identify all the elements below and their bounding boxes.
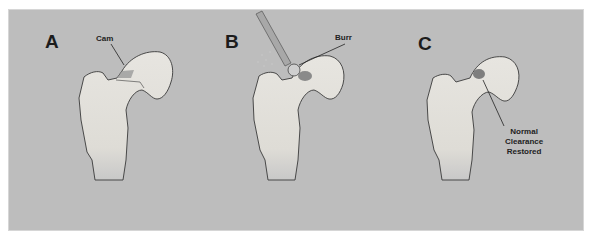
cam-label: Cam <box>96 34 113 44</box>
label-line-2: Clearance <box>505 137 543 147</box>
femur-illustrations <box>0 0 597 240</box>
label-line-3: Restored <box>505 147 543 157</box>
femur-a-icon <box>79 44 173 180</box>
panel-letter-b: B <box>225 31 239 53</box>
femur-b-icon <box>253 11 345 180</box>
label-line-1: Normal <box>505 127 543 137</box>
normal-clearance-label: Normal Clearance Restored <box>505 127 543 157</box>
panel-letter-c: C <box>418 33 432 55</box>
panel-letter-a: A <box>45 31 59 53</box>
burr-label: Burr <box>335 33 352 43</box>
femur-c-icon <box>427 57 519 180</box>
